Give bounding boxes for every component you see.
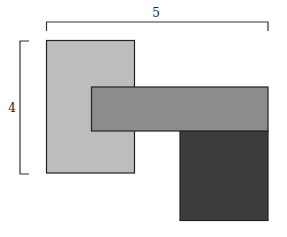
dark-rectangle <box>180 131 268 221</box>
height-bracket <box>20 41 29 174</box>
diagram-canvas: 5 4 <box>0 0 287 237</box>
height-label: 4 <box>8 101 16 115</box>
width-label: 5 <box>152 6 160 20</box>
medium-rectangle <box>92 87 269 131</box>
width-bracket <box>47 22 269 31</box>
